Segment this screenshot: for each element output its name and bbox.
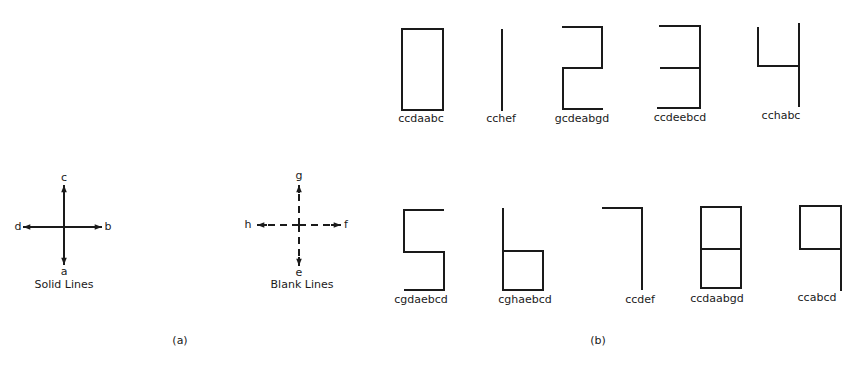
digit-7-code: ccdef xyxy=(625,294,655,305)
direction-label-f: f xyxy=(344,219,348,230)
digit-8-glyph xyxy=(701,207,741,288)
digit-9-glyph xyxy=(800,206,841,290)
direction-label-b: b xyxy=(105,221,112,232)
digit-9-code: ccabcd xyxy=(798,292,837,303)
digit-1-code: cchef xyxy=(486,113,516,124)
digit-3-code: ccdeebcd xyxy=(654,112,707,123)
blank-lines-direction-diagram xyxy=(258,186,340,265)
digit-6-code: cghaebcd xyxy=(498,294,552,305)
direction-label-a: a xyxy=(61,266,68,277)
direction-label-e: e xyxy=(296,267,303,278)
blank-lines-caption: Blank Lines xyxy=(271,279,334,290)
figure-canvas xyxy=(0,0,862,365)
direction-label-g: g xyxy=(296,170,303,181)
digit-2-code: gcdeabgd xyxy=(555,113,609,124)
digit-4-code: cchabc xyxy=(762,110,801,121)
solid-lines-caption: Solid Lines xyxy=(35,279,94,290)
direction-label-h: h xyxy=(245,219,252,230)
digit-0-glyph xyxy=(402,29,443,110)
digit-7-glyph xyxy=(603,208,642,289)
digit-4-glyph xyxy=(758,24,799,106)
digit-chain-code-figure: c a b d Solid Lines g e f h Blank Lines … xyxy=(0,0,862,365)
solid-lines-direction-diagram xyxy=(24,186,101,264)
digit-5-code: cgdaebcd xyxy=(394,294,448,305)
digit-0-code: ccdaabc xyxy=(398,113,444,124)
digit-3-glyph xyxy=(658,26,700,108)
digit-5-glyph xyxy=(404,210,444,290)
direction-label-c: c xyxy=(61,172,67,183)
panel-a-label: (a) xyxy=(172,335,187,346)
panel-b-label: (b) xyxy=(590,335,606,346)
digit-2-glyph xyxy=(563,27,602,109)
digit-8-code: ccdaabgd xyxy=(690,293,744,304)
digit-6-glyph xyxy=(503,209,543,290)
direction-label-d: d xyxy=(15,221,22,232)
